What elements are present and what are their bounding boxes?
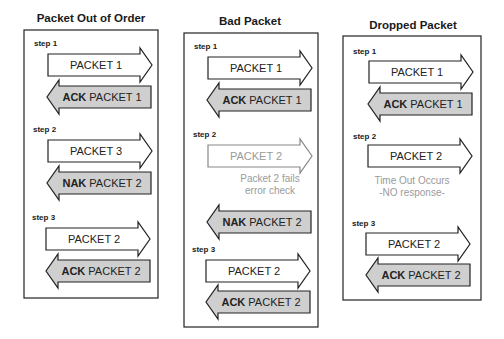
send-label: PACKET 2: [390, 150, 442, 162]
packet-diagram: Packet Out of Order step 1 PACKET 1 ACK …: [0, 0, 504, 339]
step-label: step 1: [194, 42, 218, 51]
panel-bad-packet: Bad Packet step 1 PACKET 1 ACK PACKET 1 …: [184, 15, 318, 327]
send-label: PACKET 1: [70, 59, 122, 71]
reply-label: ACK PACKET 1: [222, 94, 301, 106]
note-line-1: Packet 2 fails: [240, 173, 299, 184]
note-line-1: Time Out Occurs: [374, 175, 449, 186]
step-label: step 1: [34, 39, 58, 48]
panel-title: Dropped Packet: [369, 19, 457, 31]
reply-label: NAK PACKET 2: [62, 177, 141, 189]
step-label: step 2: [353, 132, 377, 141]
send-label: PACKET 2: [388, 238, 440, 250]
reply-label: ACK PACKET 1: [62, 91, 141, 103]
panel-title: Packet Out of Order: [37, 12, 146, 24]
panel-packet-out-of-order: Packet Out of Order step 1 PACKET 1 ACK …: [24, 12, 158, 298]
panel-title: Bad Packet: [219, 15, 281, 27]
send-label: PACKET 1: [230, 62, 282, 74]
step-label: step 3: [32, 213, 56, 222]
reply-label: ACK PACKET 2: [381, 269, 460, 281]
reply-label: NAK PACKET 2: [222, 216, 301, 228]
step-label: step 3: [352, 219, 376, 228]
step-label: step 1: [353, 47, 377, 56]
send-label: PACKET 3: [70, 145, 122, 157]
send-label: PACKET 2: [230, 150, 282, 162]
step-label: step 3: [192, 245, 216, 254]
note-line-2: error check: [245, 185, 296, 196]
reply-label: ACK PACKET 1: [383, 98, 462, 110]
note-line-2: -NO response-: [379, 187, 445, 198]
step-label: step 2: [33, 125, 57, 134]
reply-label: ACK PACKET 2: [221, 296, 300, 308]
send-label: PACKET 1: [391, 66, 443, 78]
panel-dropped-packet: Dropped Packet step 1 PACKET 1 ACK PACKE…: [343, 19, 481, 300]
send-label: PACKET 2: [68, 233, 120, 245]
reply-label: ACK PACKET 2: [61, 265, 140, 277]
send-label: PACKET 2: [228, 265, 280, 277]
step-label: step 2: [193, 130, 217, 139]
